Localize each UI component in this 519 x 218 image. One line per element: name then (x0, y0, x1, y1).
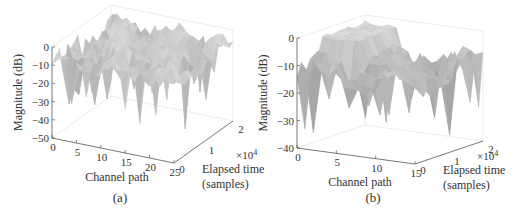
z-tick-label: −30 (277, 115, 295, 127)
y-axis-multiplier-exponent: 4 (494, 149, 498, 158)
x-tick-label: 15 (121, 156, 133, 168)
surface-plot-a: 05101520250120−10−20−30−40−50Channel pat… (11, 5, 264, 205)
z-tick-label: −20 (277, 87, 295, 99)
z-axis-label: Magnitude (dB) (256, 55, 270, 132)
z-tick-label: −30 (32, 96, 50, 108)
panel-caption: (b) (365, 190, 380, 205)
y-tick-label: 0 (179, 163, 185, 175)
surface-mesh (297, 21, 483, 135)
y-axis-multiplier: ×104 (236, 148, 257, 161)
z-tick-label: 0 (289, 32, 295, 44)
x-tick-label: 0 (50, 141, 56, 153)
panel-caption: (a) (113, 190, 127, 205)
y-tick-label: 2 (238, 123, 244, 135)
x-tick-label: 5 (335, 156, 341, 168)
y-axis-label-line2: (samples) (443, 178, 490, 192)
x-tick-label: 0 (295, 151, 301, 163)
surface-patch (361, 21, 373, 25)
box-edge (297, 125, 365, 148)
x-axis-label: Channel path (328, 175, 392, 189)
x-axis-line (297, 148, 415, 164)
x-axis-label: Channel path (85, 170, 149, 184)
z-tick-label: −50 (32, 132, 50, 144)
z-axis-label: Magnitude (dB) (11, 54, 25, 131)
z-tick-label: −10 (32, 59, 50, 71)
y-axis-line (174, 121, 233, 163)
box-edge (365, 125, 483, 141)
z-tick-label: −20 (32, 77, 50, 89)
surface-mesh (52, 14, 233, 129)
z-tick-label: 0 (44, 41, 50, 53)
y-axis-label-line1: Elapsed time (443, 163, 505, 177)
z-tick-label: −40 (277, 142, 295, 154)
x-tick-label: 10 (96, 151, 108, 163)
y-axis-line (415, 141, 483, 164)
y-axis-label-line1: Elapsed time (202, 162, 264, 176)
box-edge (111, 96, 233, 121)
x-axis-line (52, 138, 174, 163)
y-axis-label-line2: (samples) (202, 177, 249, 191)
y-axis-multiplier: ×104 (477, 149, 498, 162)
z-tick-label: −10 (277, 60, 295, 72)
x-tick-label: 5 (75, 146, 81, 158)
z-tick-label: −40 (32, 114, 50, 126)
box-edge (52, 96, 111, 138)
y-axis-multiplier-exponent: 4 (253, 148, 257, 157)
x-tick-label: 10 (371, 162, 383, 174)
y-tick-label: 1 (209, 144, 215, 156)
y-tick-label: 0 (420, 164, 426, 176)
figure: 05101520250120−10−20−30−40−50Channel pat… (0, 0, 519, 218)
surface-plot-b: 0510150120−10−20−30−40Channel pathElapse… (256, 15, 505, 205)
